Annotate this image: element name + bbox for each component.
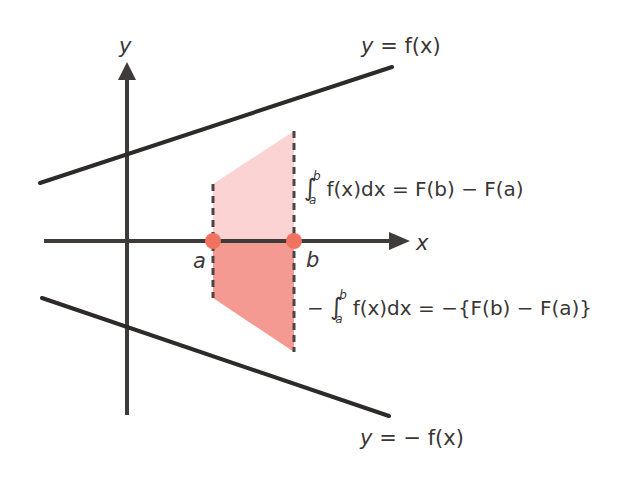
y-axis-label: y	[119, 36, 131, 57]
lower-integral-equation: − ∫baf(x)dx = −{F(b) − F(a)}	[307, 295, 592, 319]
integral-diagram: y x a b y = f(x) y = − f(x) ∫baf(x)dx = …	[0, 0, 627, 487]
upper-integral-equation: ∫baf(x)dx = F(b) − F(a)	[304, 176, 524, 200]
curve-f	[40, 67, 392, 183]
upper-shaded-region	[213, 131, 294, 241]
x-axis-label: x	[416, 233, 428, 254]
curve-f-label: y = f(x)	[361, 36, 441, 57]
y-axis-arrow-icon	[118, 62, 136, 80]
diagram-canvas	[0, 0, 627, 487]
point-b	[286, 233, 302, 249]
curve-neg-f-label: y = − f(x)	[360, 428, 464, 449]
integral-sign-icon: ∫ba	[304, 176, 317, 200]
x-axis-arrow-icon	[389, 232, 410, 250]
lower-shaded-region	[213, 241, 294, 352]
point-b-label: b	[306, 250, 319, 271]
point-a	[205, 233, 221, 249]
integral-sign-icon: ∫ba	[330, 295, 343, 319]
point-a-label: a	[193, 251, 206, 272]
